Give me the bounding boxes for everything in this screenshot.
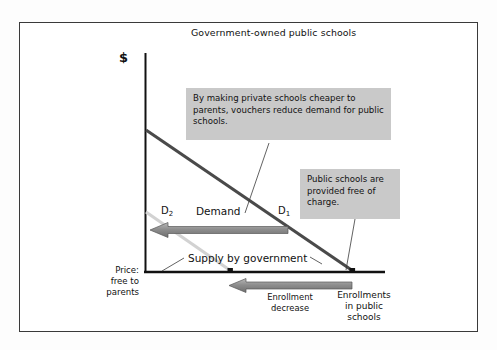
leader-line-supply-left <box>162 258 184 271</box>
leader-line-free-callout <box>346 219 355 270</box>
curve-label-d2-letter: D <box>161 205 169 216</box>
curve-label-d1-letter: D <box>278 205 286 216</box>
y-axis-label-line-3: parents <box>106 287 139 297</box>
x-axis-label-line-3: schools <box>347 312 381 322</box>
enrollment-decrease-line-1: Enrollment <box>267 292 313 302</box>
supply-label: Supply by government <box>188 252 307 264</box>
y-axis-label: Price:free toparents <box>83 265 139 298</box>
figure-root: Government-owned public schools $ By mak… <box>0 0 497 350</box>
demand-label: Demand <box>196 205 241 217</box>
callout-voucher-effect: By making private schools cheaper to par… <box>186 88 391 140</box>
enrollment-decrease-line-2: decrease <box>271 303 309 313</box>
callout-free-provision: Public schools are provided free of char… <box>300 169 400 219</box>
figure-title: Government-owned public schools <box>191 27 356 38</box>
leader-line-voucher-callout <box>245 143 269 213</box>
y-axis-currency-symbol: $ <box>119 50 128 65</box>
curve-label-d1: D1 <box>278 205 290 217</box>
x-axis-label: Enrollmentsin publicschools <box>327 290 401 323</box>
diagram-canvas <box>0 0 497 350</box>
demand-shift-arrow <box>150 223 288 238</box>
equilibrium-dot-d1 <box>350 268 356 273</box>
curve-label-d2-subscript: 2 <box>169 210 173 218</box>
x-axis-label-line-1: Enrollments <box>337 290 391 300</box>
y-axis-label-line-2: free to <box>111 276 139 286</box>
x-axis-label-line-2: in public <box>345 301 383 311</box>
curve-label-d1-subscript: 1 <box>286 210 290 218</box>
equilibrium-dot-d2 <box>228 268 233 273</box>
leader-line-supply-right <box>310 257 322 264</box>
curve-label-d2: D2 <box>161 205 173 217</box>
y-axis-label-line-1: Price: <box>115 265 139 275</box>
enrollment-decrease-label: Enrollmentdecrease <box>254 292 326 313</box>
